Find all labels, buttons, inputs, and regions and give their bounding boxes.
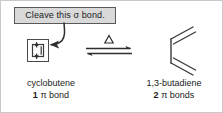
- product-name: 1,3-butadiene: [127, 77, 221, 89]
- reactant-pi-bond-count: 1 π bond: [5, 89, 97, 101]
- equilibrium-reaction-arrow-icon: [83, 33, 135, 61]
- reactant-caption: cyclobutene 1 π bond: [5, 77, 97, 101]
- product-pi-count-number: 2: [154, 90, 159, 100]
- callout-label-text: Cleave this σ bond.: [25, 11, 105, 20]
- reaction-scheme-figure: Cleave this σ bond.: [0, 0, 223, 113]
- product-caption: 1,3-butadiene 2 π bonds: [127, 77, 221, 101]
- reactant-name: cyclobutene: [5, 77, 97, 89]
- product-pi-count-unit: π bonds: [161, 90, 194, 100]
- product-pi-bond-count: 2 π bonds: [127, 89, 221, 101]
- cyclobutene-structure-icon: [27, 39, 49, 62]
- butadiene-structure-icon: [159, 25, 209, 77]
- reactant-pi-count-unit: π bond: [40, 90, 69, 100]
- reactant-pi-count-number: 1: [33, 90, 38, 100]
